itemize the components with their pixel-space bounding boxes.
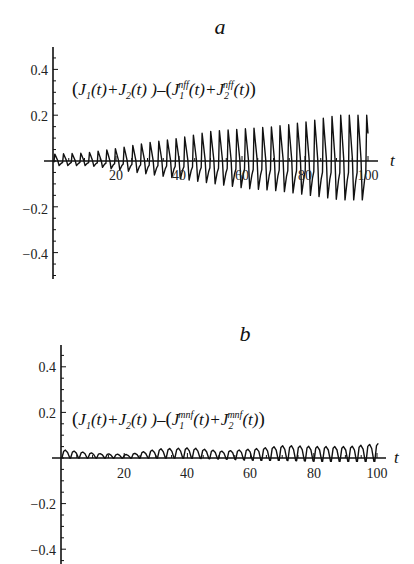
panel-a-ytick-label: −0.4 (23, 247, 48, 262)
panel-a-title: a (215, 14, 226, 39)
panel-a-xtick-label: 80 (298, 168, 312, 183)
formula-paren: ) (258, 408, 264, 429)
panel-a-xtick-label: 100 (358, 168, 379, 183)
panel-a-ytick-label: 0.4 (31, 63, 49, 78)
formula-sub: 1 (179, 90, 184, 101)
formula-text: (t) )– (131, 410, 165, 429)
panel-a-ytick-label: −0.2 (23, 202, 48, 217)
panel-a-x-axis-label: t (390, 151, 396, 170)
formula-j1: J (78, 80, 86, 99)
panel-b-x-axis-label: t (394, 448, 400, 467)
panel-b-xtick-label: 60 (243, 466, 257, 481)
panel-a-curve (54, 115, 368, 200)
formula-sub: 2 (224, 90, 229, 101)
formula-text: (t) )– (131, 80, 165, 99)
panel-b-ytick-label: −0.4 (31, 543, 56, 558)
formula-text: (t) (234, 80, 250, 99)
panel-b-xtick-label: 100 (367, 466, 388, 481)
panel-a-xtick-label: 20 (109, 168, 123, 183)
formula-paren: ) (250, 78, 256, 99)
panel-b-formula: (J1(t)+J2(t) )–(J1mnf(t)+J2mnf(t)) (72, 408, 265, 431)
panel-a-xtick-label: 40 (172, 168, 186, 183)
formula-text: (t) (242, 410, 258, 429)
panel-a-formula: (J1(t)+J2(t) )–(J1nff(t)+J2nff(t)) (72, 78, 256, 101)
formula-j1: J (78, 410, 86, 429)
formula-j2: J (118, 410, 126, 429)
panel-b-xtick-label: 40 (180, 466, 194, 481)
panel-b-title: b (240, 321, 251, 346)
panel-b-ytick-label: 0.2 (39, 406, 57, 421)
formula-text: (t)+ (189, 80, 217, 99)
panel-a-ytick-label: 0.2 (31, 109, 49, 124)
formula-text: (t)+ (193, 410, 221, 429)
formula-sup: nff (178, 79, 189, 90)
formula-sup: mnf (227, 409, 242, 420)
formula-j2: J (118, 80, 126, 99)
formula-sup: mnf (178, 409, 193, 420)
panel-b-ytick-label: −0.2 (31, 497, 56, 512)
formula-text: (t)+ (91, 410, 119, 429)
panel-a-xtick-label: 60 (235, 168, 249, 183)
panel-a: a 0.4 0.2 −0.2 −0.4 20 40 60 80 100 t (23, 14, 396, 279)
panel-b: b 0.4 0.2 −0.2 −0.4 20 40 60 80 100 t (31, 321, 400, 564)
panel-b-xtick-label: 20 (117, 466, 131, 481)
formula-sup: nff (223, 79, 234, 90)
formula-sub: 1 (179, 420, 184, 431)
formula-text: (t)+ (91, 80, 119, 99)
formula-sub: 2 (228, 420, 233, 431)
panel-b-ytick-label: 0.4 (39, 360, 57, 375)
panel-b-xtick-label: 80 (307, 466, 321, 481)
